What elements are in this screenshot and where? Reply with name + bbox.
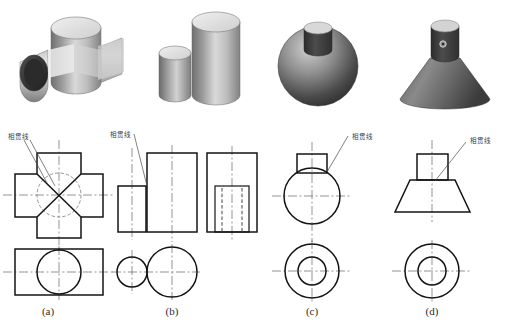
intersection-line-label-c: 相贯线 bbox=[352, 131, 373, 141]
solid-renderings-layer bbox=[0, 0, 519, 327]
projection-c bbox=[272, 136, 352, 302]
intersection-line-label-b: 相贯线 bbox=[110, 129, 131, 139]
projection-b bbox=[112, 134, 257, 300]
solid-d-cone-with-cylinder bbox=[400, 20, 490, 109]
caption-c: (c) bbox=[292, 305, 332, 317]
solid-b-parallel-cylinders bbox=[159, 12, 240, 105]
solid-a-crossed-cylinders bbox=[20, 17, 124, 102]
projection-a bbox=[3, 140, 114, 300]
solid-c-sphere-with-cylinder bbox=[278, 22, 358, 106]
projection-d bbox=[392, 140, 472, 302]
intersection-line-label-d: 相贯线 bbox=[470, 135, 491, 145]
caption-d: (d) bbox=[412, 305, 452, 317]
caption-b: (b) bbox=[152, 305, 192, 317]
intersection-line-label-a: 相贯线 bbox=[8, 131, 29, 141]
caption-a: (a) bbox=[28, 305, 68, 317]
technical-drawing-figure: 相贯线 相贯线 相贯线 相贯线 (a) (b) (c) (d) bbox=[0, 0, 519, 327]
